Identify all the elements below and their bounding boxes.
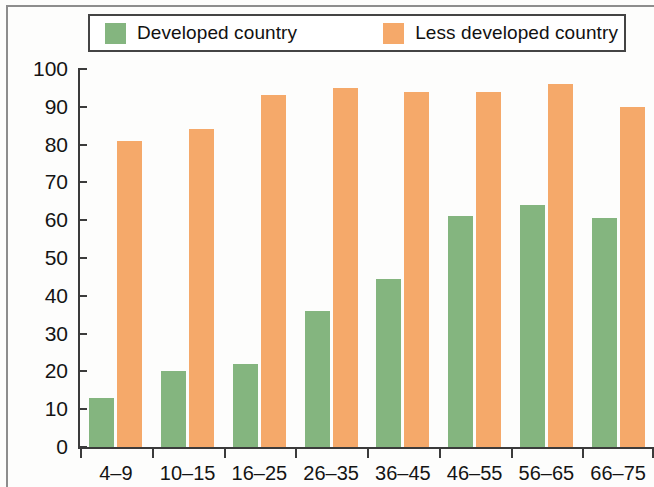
bar-less-developed [333,88,358,447]
bar-developed [376,279,401,447]
y-axis-tick-label: 80 [12,133,68,157]
x-axis-tick [511,447,513,458]
bar-developed [89,398,114,447]
bar-less-developed [261,95,286,447]
x-axis-tick [152,447,154,458]
y-axis-tick-label: 40 [12,284,68,308]
y-axis-tick-label: 100 [12,57,68,81]
x-axis-tick [582,447,584,458]
bar-developed [520,205,545,447]
x-axis-tick-label: 46–55 [447,462,503,485]
y-axis-tick-label: 70 [12,170,68,194]
y-axis-tick-label: 50 [12,246,68,270]
bar-developed [592,218,617,447]
y-axis-tick-label: 20 [12,359,68,383]
y-axis-tick-label: 30 [12,322,68,346]
bar-less-developed [404,92,429,447]
y-axis-tick-label: 10 [12,397,68,421]
x-axis-tick [224,447,226,458]
bar-developed [161,371,186,447]
x-axis-tick-label: 56–65 [519,462,575,485]
y-axis-tick [78,295,87,297]
y-axis-tick [78,144,87,146]
bar-less-developed [117,141,142,447]
y-axis-tick [78,106,87,108]
x-axis-tick-label: 66–75 [590,462,646,485]
y-axis-tick [78,333,87,335]
bar-less-developed [189,129,214,447]
y-axis-tick [78,408,87,410]
bar-less-developed [548,84,573,447]
y-axis-tick-label: 0 [12,435,68,459]
bar-less-developed [620,107,645,447]
y-axis-tick [78,181,87,183]
y-axis-tick [78,370,87,372]
x-axis-tick-label: 10–15 [160,462,216,485]
bar-developed [233,364,258,447]
y-axis-tick-label: 90 [12,95,68,119]
x-axis-line [78,447,654,449]
bar-developed [305,311,330,447]
bar-developed [448,216,473,447]
plot-area: 0102030405060708090100 4–910–1516–2526–3… [0,0,654,487]
x-axis-tick-label: 16–25 [232,462,288,485]
bar-less-developed [476,92,501,447]
x-axis-tick-label: 26–35 [303,462,359,485]
x-axis-tick [295,447,297,458]
y-axis-tick [78,219,87,221]
y-axis-tick [78,257,87,259]
x-axis-tick-label: 36–45 [375,462,431,485]
x-axis-tick [439,447,441,458]
x-axis-tick [367,447,369,458]
y-axis-tick-label: 60 [12,208,68,232]
x-axis-tick [80,447,82,458]
chart-figure: Developed country Less developed country… [0,0,654,487]
y-axis-tick [78,68,87,70]
x-axis-tick-label: 4–9 [99,462,132,485]
